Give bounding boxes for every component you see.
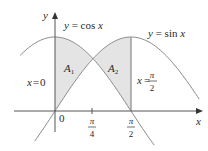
y-axis-arrow-icon bbox=[52, 12, 58, 19]
svg-text:2: 2 bbox=[150, 83, 155, 93]
boundary-label-x-equals-0: x=0 bbox=[26, 76, 46, 88]
x-axis-label: x bbox=[195, 115, 201, 127]
y-axis-label: y bbox=[42, 9, 48, 21]
region-a2-shade bbox=[93, 37, 131, 111]
area-between-curves-diagram: y x 0 y = cos x y = sin x A1 A2 x=0 x = … bbox=[0, 0, 208, 151]
boundary-label-x-equals-pi-over-2: x = π 2 bbox=[136, 70, 157, 93]
svg-text:x: x bbox=[136, 74, 142, 86]
origin-label: 0 bbox=[59, 112, 65, 124]
svg-text:4: 4 bbox=[90, 129, 95, 139]
tick-label-pi-over-4: π 4 bbox=[88, 116, 96, 139]
svg-text:π: π bbox=[90, 116, 95, 126]
tick-label-pi-over-2: π 2 bbox=[127, 116, 135, 139]
svg-text:π: π bbox=[150, 70, 155, 80]
svg-text:π: π bbox=[129, 116, 134, 126]
x-axis-arrow-icon bbox=[196, 108, 203, 114]
cos-curve-label: y = cos x bbox=[63, 19, 103, 31]
sin-curve-label: y = sin x bbox=[147, 27, 185, 39]
svg-text:2: 2 bbox=[129, 129, 134, 139]
cos-curve bbox=[20, 37, 154, 145]
